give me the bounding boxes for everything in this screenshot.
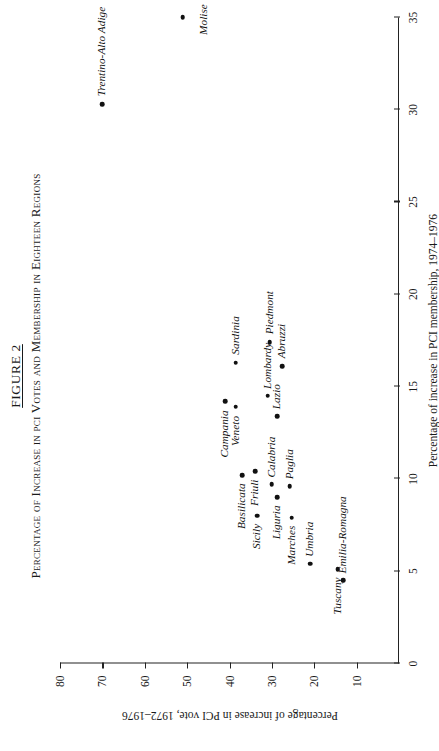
- x-tick: [394, 293, 400, 294]
- data-point-label: Sardinia: [229, 316, 241, 355]
- x-tick: [394, 16, 400, 17]
- data-point[interactable]: [253, 469, 258, 474]
- data-point-label: Tuscany: [331, 577, 343, 614]
- x-tick-label: 30: [407, 104, 419, 116]
- y-tick-label: 70: [96, 675, 108, 687]
- x-tick-label: 35: [407, 11, 419, 23]
- y-tick-label: 60: [139, 675, 151, 687]
- data-point[interactable]: [341, 578, 346, 583]
- data-point[interactable]: [275, 413, 280, 418]
- y-tick-label: 10: [351, 675, 363, 687]
- data-point-label: Piedmont: [263, 291, 275, 334]
- y-tick-label: 40: [224, 675, 236, 687]
- data-point-label: Umbria: [303, 521, 315, 556]
- y-tick: [357, 662, 358, 668]
- y-tick: [314, 662, 315, 668]
- data-point[interactable]: [234, 404, 239, 409]
- y-tick-label: 80: [54, 675, 66, 687]
- x-tick-label: 15: [407, 380, 419, 392]
- y-tick: [230, 662, 231, 668]
- data-point[interactable]: [280, 364, 285, 369]
- x-axis-title: Percentage of increase in PCI membership…: [427, 213, 439, 466]
- x-tick: [394, 200, 400, 201]
- data-point-label: Sicily: [250, 523, 262, 548]
- x-axis-line: [398, 17, 399, 663]
- x-tick-label: 25: [407, 196, 419, 208]
- y-tick: [102, 662, 103, 668]
- x-tick-label: 0: [407, 660, 419, 666]
- data-point-label: Trentino-Alto Adige: [95, 6, 107, 95]
- data-point[interactable]: [265, 393, 270, 398]
- y-tick: [272, 662, 273, 668]
- data-point-label: Molise: [197, 4, 209, 35]
- figure-number-text: FIGURE 2: [8, 344, 23, 408]
- x-tick: [394, 108, 400, 109]
- data-point-label: Liguria: [270, 505, 282, 539]
- y-tick: [145, 662, 146, 668]
- y-tick-label: 20: [308, 675, 320, 687]
- data-point[interactable]: [275, 495, 280, 500]
- x-tick: [394, 477, 400, 478]
- x-tick-label: 10: [407, 473, 419, 485]
- y-tick-label: 50: [181, 675, 193, 687]
- data-point[interactable]: [100, 101, 105, 106]
- data-point-label: Abruzzi: [275, 323, 287, 358]
- data-point[interactable]: [234, 360, 239, 365]
- data-point-label: Marches: [285, 525, 297, 564]
- data-point-label: Lombardy: [261, 342, 273, 388]
- y-tick: [187, 662, 188, 668]
- data-point[interactable]: [287, 484, 292, 489]
- data-point[interactable]: [270, 482, 275, 487]
- data-point-label: Calabria: [265, 436, 277, 477]
- data-point[interactable]: [240, 472, 245, 477]
- data-point-label: Veneto: [229, 415, 241, 445]
- data-point-label: Emilia-Romagna: [336, 496, 348, 573]
- data-point-label: Basilicata: [235, 483, 247, 529]
- data-point[interactable]: [308, 561, 313, 566]
- x-tick: [394, 385, 400, 386]
- x-tick: [394, 662, 400, 663]
- data-point[interactable]: [255, 513, 260, 518]
- x-tick-label: 20: [407, 288, 419, 300]
- x-tick-label: 5: [407, 568, 419, 574]
- data-point[interactable]: [223, 399, 228, 404]
- data-point[interactable]: [289, 515, 294, 520]
- data-point-label: Paglia: [283, 449, 295, 479]
- x-tick: [394, 570, 400, 571]
- y-axis-title: Percentage of increase in PCI vote, 1972…: [121, 709, 337, 721]
- scatter-plot-area: 05101520253035 1020304050607080 Percenta…: [60, 17, 399, 663]
- figure-number: FIGURE 2: [8, 0, 24, 751]
- data-point-label: Friuli: [248, 479, 260, 505]
- y-tick: [60, 662, 61, 668]
- data-point[interactable]: [181, 15, 186, 20]
- y-tick-label: 30: [266, 675, 278, 687]
- data-point-label: Lazio: [270, 384, 282, 409]
- figure-title: Percentage of Increase in pci Votes and …: [28, 0, 44, 751]
